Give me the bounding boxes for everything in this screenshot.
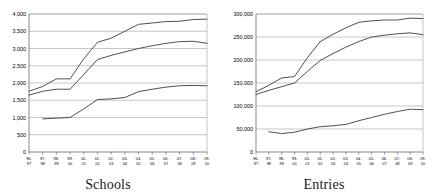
- y-axis-tick-label: 3,000: [13, 46, 27, 52]
- x-axis-tick-label: 98: [267, 161, 271, 166]
- x-axis-tick-label: 08: [395, 161, 399, 166]
- y-axis-tick-label: 0: [250, 149, 253, 155]
- y-axis-tick-label: 1,000: [13, 115, 27, 121]
- x-axis-tick-label: 02: [95, 161, 99, 166]
- x-axis-tick-label: 00: [68, 161, 73, 166]
- data-series-line: [29, 41, 207, 95]
- data-series-line: [269, 109, 423, 133]
- y-axis-tick-label: 1,500: [13, 97, 27, 103]
- x-axis-tick-label: 04: [123, 161, 128, 166]
- x-axis-tick-label: 05: [136, 161, 140, 166]
- data-series-line: [29, 19, 207, 91]
- x-axis-tick-label: 97: [254, 161, 258, 166]
- x-axis-tick-label: 01: [305, 161, 309, 166]
- x-axis-tick-label: 07: [164, 161, 168, 166]
- y-axis-tick-label: 250,000: [234, 34, 254, 40]
- x-axis-tick-label: 09: [191, 161, 195, 166]
- y-axis-tick-label: 0: [23, 149, 26, 155]
- schools-chart-plot: 05001,0001,5002,0002,5003,0003,5004,0009…: [0, 0, 216, 195]
- x-axis-tick-label: 05: [357, 161, 361, 166]
- data-series-line: [256, 33, 423, 95]
- x-axis-tick-label: 97: [27, 161, 31, 166]
- y-axis-tick-label: 300,000: [234, 11, 254, 17]
- chart-panel-entries: 050,000100,000150,000200,000250,000300,0…: [216, 0, 432, 195]
- x-axis-tick-label: 98: [41, 161, 45, 166]
- x-axis-tick-label: 00: [292, 161, 297, 166]
- x-axis-tick-label: 99: [280, 161, 284, 166]
- x-axis-tick-label: 03: [331, 161, 335, 166]
- x-axis-tick-label: 10: [205, 161, 210, 166]
- chart-panel-schools: 05001,0001,5002,0002,5003,0003,5004,0009…: [0, 0, 216, 195]
- y-axis-tick-label: 500: [17, 132, 26, 138]
- y-axis-tick-label: 4,000: [13, 11, 27, 17]
- y-axis-tick-label: 150,000: [234, 80, 254, 86]
- x-axis-tick-label: 03: [109, 161, 113, 166]
- x-axis-tick-label: 02: [318, 161, 322, 166]
- y-axis-tick-label: 50,000: [237, 126, 254, 132]
- x-axis-tick-label: 09: [408, 161, 412, 166]
- x-axis-tick-label: 99: [54, 161, 58, 166]
- y-axis-tick-label: 2,500: [13, 63, 27, 69]
- y-axis-tick-label: 200,000: [234, 57, 254, 63]
- two-panel-line-chart-figure: 05001,0001,5002,0002,5003,0003,5004,0009…: [0, 0, 432, 195]
- schools-chart-title: Schools: [0, 177, 216, 193]
- x-axis-tick-label: 06: [369, 161, 373, 166]
- x-axis-tick-label: 10: [421, 161, 426, 166]
- entries-chart-title: Entries: [216, 177, 432, 193]
- x-axis-tick-label: 08: [177, 161, 181, 166]
- data-series-line: [43, 85, 207, 118]
- x-axis-tick-label: 01: [82, 161, 86, 166]
- y-axis-tick-label: 3,500: [13, 28, 27, 34]
- y-axis-tick-label: 2,000: [13, 80, 27, 86]
- entries-chart-plot: 050,000100,000150,000200,000250,000300,0…: [216, 0, 432, 195]
- x-axis-tick-label: 04: [344, 161, 349, 166]
- y-axis-tick-label: 100,000: [234, 103, 254, 109]
- x-axis-tick-label: 07: [382, 161, 386, 166]
- data-series-line: [256, 18, 423, 92]
- x-axis-tick-label: 06: [150, 161, 154, 166]
